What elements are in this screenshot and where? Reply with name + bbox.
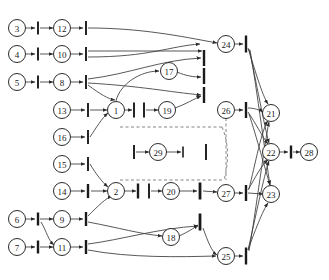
place-circle[interactable]: [54, 102, 71, 119]
place-circle[interactable]: [150, 144, 167, 161]
petri-net-figure: 3456712108131615149111217192920182426272…: [0, 0, 329, 280]
place-circle[interactable]: [163, 183, 180, 200]
place-node[interactable]: 18: [163, 229, 180, 246]
place-node[interactable]: 20: [163, 183, 180, 200]
arc: [88, 222, 162, 236]
place-node[interactable]: 17: [161, 63, 178, 80]
place-node[interactable]: 26: [218, 102, 235, 119]
place-circle[interactable]: [54, 183, 71, 200]
place-node[interactable]: 14: [54, 183, 71, 200]
dashed-arc-layer: [120, 118, 228, 180]
place-circle[interactable]: [161, 63, 178, 80]
place-node[interactable]: 12: [54, 20, 71, 37]
place-circle[interactable]: [9, 211, 26, 228]
place-circle[interactable]: [218, 248, 235, 265]
arc: [41, 222, 54, 245]
place-node[interactable]: 7: [9, 239, 26, 256]
place-node[interactable]: 21: [263, 105, 280, 122]
arc: [88, 44, 200, 57]
place-circle[interactable]: [54, 20, 71, 37]
place-node[interactable]: 11: [54, 239, 71, 256]
place-node[interactable]: 28: [301, 144, 318, 161]
place-circle[interactable]: [9, 20, 26, 37]
place-node[interactable]: 1: [108, 102, 125, 119]
place-node[interactable]: 10: [54, 46, 71, 63]
place-circle[interactable]: [263, 105, 280, 122]
arc: [88, 58, 201, 79]
place-circle[interactable]: [301, 144, 318, 161]
place-node[interactable]: 6: [9, 211, 26, 228]
place-layer: 3456712108131615149111217192920182426272…: [9, 20, 318, 265]
place-node[interactable]: 8: [54, 74, 71, 91]
arc: [248, 108, 263, 112]
place-node[interactable]: 19: [159, 102, 176, 119]
place-circle[interactable]: [159, 102, 176, 119]
place-circle[interactable]: [108, 102, 125, 119]
arc: [88, 250, 216, 257]
place-node[interactable]: 27: [218, 185, 235, 202]
arc: [248, 203, 268, 250]
place-node[interactable]: 22: [263, 144, 280, 161]
place-node[interactable]: 3: [9, 20, 26, 37]
place-circle[interactable]: [163, 229, 180, 246]
place-node[interactable]: 13: [54, 102, 71, 119]
place-circle[interactable]: [108, 183, 125, 200]
place-circle[interactable]: [54, 156, 71, 173]
place-node[interactable]: 25: [218, 248, 235, 265]
place-node[interactable]: 29: [150, 144, 167, 161]
place-node[interactable]: 24: [218, 36, 235, 53]
arc: [175, 96, 201, 108]
place-circle[interactable]: [9, 46, 26, 63]
arc: [88, 83, 201, 95]
place-circle[interactable]: [218, 36, 235, 53]
arc: [90, 164, 108, 187]
place-circle[interactable]: [218, 102, 235, 119]
arc: [177, 72, 201, 77]
arc: [90, 113, 108, 137]
place-circle[interactable]: [263, 186, 280, 203]
place-circle[interactable]: [54, 74, 71, 91]
petri-net-canvas: 3456712108131615149111217192920182426272…: [0, 0, 329, 280]
place-node[interactable]: 23: [263, 186, 280, 203]
place-circle[interactable]: [263, 144, 280, 161]
place-node[interactable]: 4: [9, 46, 26, 63]
arc: [88, 196, 112, 216]
place-node[interactable]: 15: [54, 156, 71, 173]
place-circle[interactable]: [218, 185, 235, 202]
place-node[interactable]: 2: [108, 183, 125, 200]
arc: [203, 228, 217, 255]
arc: [203, 191, 217, 192]
place-circle[interactable]: [54, 46, 71, 63]
place-circle[interactable]: [9, 239, 26, 256]
place-circle[interactable]: [54, 239, 71, 256]
place-circle[interactable]: [54, 129, 71, 146]
place-node[interactable]: 16: [54, 129, 71, 146]
arc: [248, 161, 269, 250]
place-node[interactable]: 9: [54, 211, 71, 228]
place-circle[interactable]: [54, 211, 71, 228]
place-circle[interactable]: [9, 74, 26, 91]
arc: [88, 28, 217, 43]
arc: [88, 85, 115, 100]
inhibitor-arc: [222, 127, 228, 180]
place-node[interactable]: 5: [9, 74, 26, 91]
